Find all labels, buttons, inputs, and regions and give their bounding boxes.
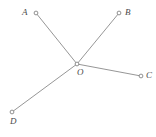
point-label-O: O xyxy=(77,68,84,77)
point-label-D: D xyxy=(10,117,17,126)
point-marker-B xyxy=(117,11,121,15)
point-marker-O xyxy=(75,62,79,66)
segment-OA xyxy=(36,13,77,64)
point-marker-C xyxy=(139,74,143,78)
point-marker-D xyxy=(10,110,14,114)
point-label-B: B xyxy=(125,8,131,17)
segment-OB xyxy=(77,13,119,64)
point-label-C: C xyxy=(146,71,152,80)
geometry-figure: A B C D O xyxy=(0,0,156,137)
point-marker-A xyxy=(34,11,38,15)
segment-OD xyxy=(12,64,77,112)
segment-OC xyxy=(77,64,141,76)
point-label-A: A xyxy=(22,8,28,17)
